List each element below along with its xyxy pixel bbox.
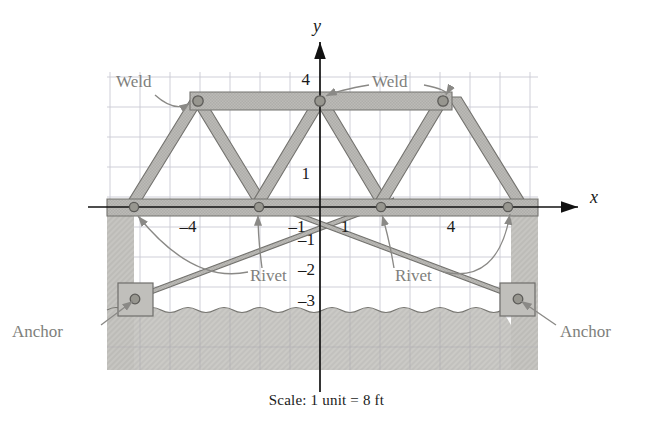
x-axis-label: x xyxy=(589,187,598,207)
scale-caption: Scale: 1 unit = 8 ft xyxy=(0,392,653,409)
label-rivet-right: Rivet xyxy=(395,266,432,285)
weld-node-top-center xyxy=(315,96,325,106)
y-tick-1: 1 xyxy=(302,164,311,183)
y-tick-minus3: –3 xyxy=(297,291,315,310)
x-tick-plus1: 1 xyxy=(341,217,350,236)
rivet-node-plus1 xyxy=(376,202,385,211)
y-tick-4: 4 xyxy=(302,70,311,89)
label-weld-left: Weld xyxy=(116,72,152,91)
y-tick-minus1: –1 xyxy=(297,230,315,249)
x-tick-plus4: 4 xyxy=(447,217,456,236)
x-tick-minus4: –4 xyxy=(179,217,198,236)
label-weld-top-center: Weld xyxy=(372,72,408,91)
rivet-node-left-end xyxy=(129,202,138,211)
weld-node-top-left xyxy=(193,96,203,106)
truss-diagram-svg: –4 –1 1 4 4 1 –1 –2 –3 x y Weld Weld Riv… xyxy=(0,0,653,428)
label-anchor-right: Anchor xyxy=(560,322,611,341)
weld-node-top-right xyxy=(438,96,448,106)
label-anchor-left: Anchor xyxy=(12,322,63,341)
y-axis-label: y xyxy=(311,16,321,36)
label-rivet-left: Rivet xyxy=(250,266,287,285)
figure-canvas: –4 –1 1 4 4 1 –1 –2 –3 x y Weld Weld Riv… xyxy=(0,0,653,428)
water-region xyxy=(107,308,538,371)
y-tick-minus2: –2 xyxy=(297,260,315,279)
rivet-node-minus1 xyxy=(254,202,263,211)
rivet-node-right-end xyxy=(503,202,512,211)
anchor-pin-right xyxy=(513,294,523,304)
